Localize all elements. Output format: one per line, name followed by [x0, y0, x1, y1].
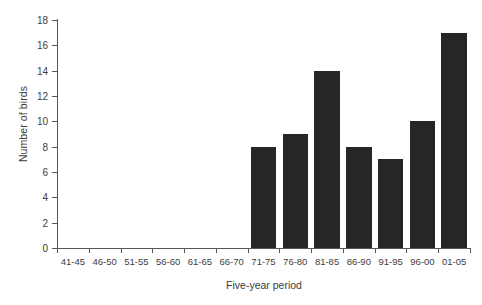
x-tick-mark	[343, 249, 344, 253]
y-tick-label: 12	[20, 91, 48, 102]
x-tick-mark	[311, 249, 312, 253]
y-tick-label: 16	[20, 40, 48, 51]
x-tick-mark	[438, 249, 439, 253]
bar	[283, 134, 308, 248]
bar	[378, 159, 403, 248]
bar	[410, 121, 435, 248]
x-tick-label: 81-85	[315, 256, 339, 267]
x-tick-mark	[279, 249, 280, 253]
x-tick-mark	[248, 249, 249, 253]
y-tick-label: 10	[20, 116, 48, 127]
y-tick-label: 14	[20, 65, 48, 76]
x-tick-label: 61-65	[188, 256, 212, 267]
x-tick-label: 76-80	[283, 256, 307, 267]
x-tick-label: 56-60	[156, 256, 180, 267]
x-tick-label: 91-95	[378, 256, 402, 267]
x-tick-mark	[406, 249, 407, 253]
x-tick-mark	[470, 249, 471, 253]
x-tick-label: 41-45	[61, 256, 85, 267]
x-tick-mark	[121, 249, 122, 253]
y-tick-label: 6	[20, 167, 48, 178]
bar	[251, 147, 276, 248]
x-tick-label: 71-75	[251, 256, 275, 267]
plot-area	[57, 20, 470, 248]
x-tick-mark	[375, 249, 376, 253]
x-tick-label: 46-50	[92, 256, 116, 267]
x-tick-mark	[57, 249, 58, 253]
bar	[346, 147, 371, 248]
x-tick-label: 96-00	[410, 256, 434, 267]
bar	[314, 71, 339, 248]
y-tick-label: 0	[20, 243, 48, 254]
x-tick-label: 86-90	[347, 256, 371, 267]
x-axis-title: Five-year period	[57, 279, 471, 291]
x-tick-label: 51-55	[124, 256, 148, 267]
bar-chart: Number of birds 024681012141618 41-4546-…	[0, 0, 482, 305]
y-tick-label: 18	[20, 15, 48, 26]
bar	[441, 33, 466, 248]
x-axis-line	[57, 248, 471, 249]
x-tick-mark	[89, 249, 90, 253]
x-tick-label: 66-70	[220, 256, 244, 267]
x-tick-mark	[184, 249, 185, 253]
y-tick-label: 8	[20, 141, 48, 152]
y-tick-label: 4	[20, 192, 48, 203]
x-tick-mark	[152, 249, 153, 253]
x-tick-label: 01-05	[442, 256, 466, 267]
y-tick-label: 2	[20, 217, 48, 228]
x-tick-mark	[216, 249, 217, 253]
